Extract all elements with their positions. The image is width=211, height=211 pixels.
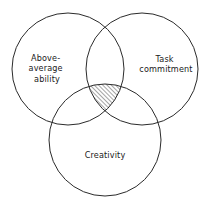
- triple-intersection-region: [0, 0, 211, 211]
- above-average-ability-label: Above- average ability: [29, 52, 66, 83]
- venn-diagram-container: Above- average ability Task commitment C…: [0, 0, 211, 211]
- ability-label-line-2: average: [29, 63, 63, 73]
- task-label-line-2: commitment: [139, 64, 192, 74]
- ability-label-line-3: ability: [34, 73, 60, 83]
- task-label-line-1: Task: [155, 53, 174, 63]
- creativity-label-line-1: Creativity: [85, 150, 126, 160]
- intersection-hatch-fill: [0, 0, 211, 211]
- venn-diagram-canvas: Above- average ability Task commitment C…: [0, 0, 211, 211]
- ability-label-line-1: Above-: [31, 52, 60, 62]
- task-commitment-label: Task commitment: [139, 53, 192, 74]
- creativity-label: Creativity: [85, 150, 126, 160]
